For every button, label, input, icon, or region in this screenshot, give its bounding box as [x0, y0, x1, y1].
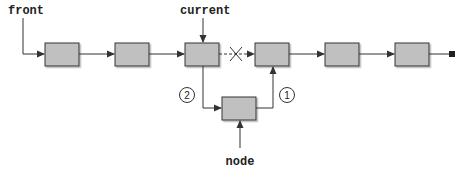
null-terminator-icon	[449, 51, 455, 57]
step-1-link-arrow	[256, 67, 273, 108]
list-node-3-current	[185, 43, 219, 66]
step-1-badge: 1	[280, 88, 295, 103]
front-label: front	[8, 4, 44, 18]
front-pointer-arrow	[23, 18, 44, 54]
step-2-badge: 2	[180, 88, 195, 103]
current-label: current	[180, 4, 230, 18]
node-label: node	[226, 155, 255, 169]
svg-text:1: 1	[284, 90, 290, 101]
list-node-1	[45, 43, 79, 66]
new-node	[222, 97, 256, 120]
step-2-link-arrow	[203, 66, 221, 108]
list-node-6	[395, 43, 429, 66]
list-node-4	[255, 43, 289, 66]
linked-list-diagram: front current 2	[0, 0, 461, 175]
svg-text:2: 2	[184, 90, 190, 101]
list-node-5	[325, 43, 359, 66]
list-node-2	[115, 43, 149, 66]
